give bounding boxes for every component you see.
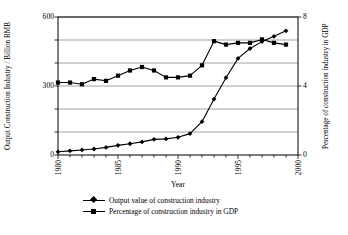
y-axis-left-tick-label: 600 [24, 12, 54, 21]
legend-marker-diamond-icon [83, 195, 105, 206]
y-axis-right-tick-label: 8 [303, 12, 307, 21]
y-axis-right-tick-label: 0 [303, 150, 307, 159]
legend-label-percentage: Percentage of construction industry in G… [109, 206, 238, 217]
y-axis-right-ticks [298, 17, 302, 155]
x-axis-tick-label: 1990 [174, 160, 183, 175]
data-series-layer [56, 28, 289, 154]
y-axis-left-tick-label: 300 [24, 81, 54, 90]
x-axis-tick-label: 2000 [294, 160, 303, 175]
x-axis-tick-label: 1995 [234, 160, 243, 175]
y-axis-left-ticks [55, 17, 59, 155]
chart-figure: Output Construction Industry / Billion R… [0, 0, 348, 235]
x-axis-ticks [58, 155, 298, 159]
y-axis-right-tick-label: 4 [303, 81, 307, 90]
y-axis-left-tick-label: 0 [24, 150, 54, 159]
chart-legend: Output value of construction industry Pe… [83, 195, 238, 217]
legend-marker-square-icon [83, 206, 105, 217]
gridlines [58, 17, 298, 132]
legend-item-percentage: Percentage of construction industry in G… [83, 206, 238, 217]
x-axis-tick-label: 1980 [54, 160, 63, 175]
legend-label-output: Output value of construction industry [109, 195, 220, 206]
x-axis-title: Year [58, 180, 298, 189]
legend-item-output: Output value of construction industry [83, 195, 238, 206]
x-axis-tick-label: 1985 [114, 160, 123, 175]
